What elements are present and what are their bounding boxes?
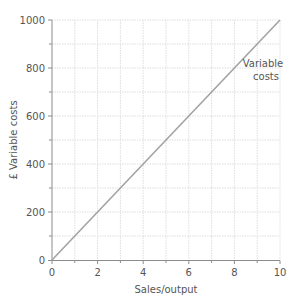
series-annotation-line2: costs bbox=[253, 71, 279, 82]
y-tick-labels: 0 200 400 600 800 1000 bbox=[20, 15, 45, 266]
y-tick-label: 800 bbox=[26, 63, 45, 74]
x-tick-label: 6 bbox=[186, 267, 192, 278]
x-tick-label: 10 bbox=[274, 267, 287, 278]
x-tick-label: 0 bbox=[49, 267, 55, 278]
y-tick-label: 200 bbox=[26, 207, 45, 218]
x-tick-labels: 0 2 4 6 8 10 bbox=[49, 267, 287, 278]
x-tick-label: 2 bbox=[94, 267, 100, 278]
y-tick-label: 600 bbox=[26, 111, 45, 122]
x-tick-label: 8 bbox=[231, 267, 237, 278]
x-axis-label: Sales/output bbox=[135, 284, 198, 295]
chart: 0 200 400 600 800 1000 0 2 4 6 8 10 Sale… bbox=[0, 0, 294, 304]
y-axis-label: £ Variable costs bbox=[8, 100, 19, 179]
y-tick-label: 0 bbox=[39, 255, 45, 266]
x-tick-label: 4 bbox=[140, 267, 146, 278]
y-tick-label: 400 bbox=[26, 159, 45, 170]
y-tick-label: 1000 bbox=[20, 15, 45, 26]
series-annotation-line1: Variable bbox=[243, 58, 284, 69]
